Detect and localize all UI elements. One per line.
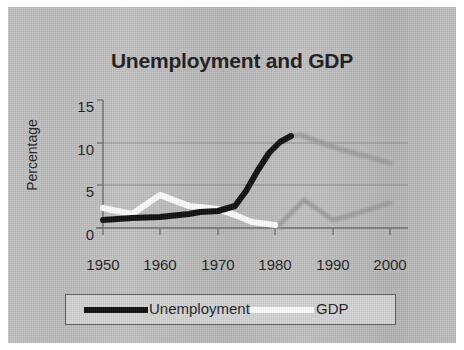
chart-figure: Unemployment and GDP Percentage 15 10 5 … (8, 7, 456, 343)
y-tick-label-10: 10 (58, 141, 94, 158)
x-axis-spine (96, 228, 408, 235)
screenshot-root: Unemployment and GDP Percentage 15 10 5 … (0, 0, 464, 350)
legend-swatch-gdp (250, 307, 314, 313)
chart-legend: Unemployment GDP (65, 294, 396, 325)
legend-label-gdp: GDP (316, 300, 349, 317)
legend-swatch-unemployment (84, 307, 148, 313)
y-tick-label-0: 0 (58, 226, 94, 243)
x-tick-label-1970: 1970 (188, 256, 248, 273)
y-tick-label-15: 15 (58, 98, 94, 115)
y-axis-title: Percentage (24, 100, 40, 210)
chart-title: Unemployment and GDP (8, 49, 456, 73)
x-tick-label-1980: 1980 (245, 256, 305, 273)
x-tick-label-2000: 2000 (360, 256, 420, 273)
series-unemployment-continued-line (291, 135, 390, 163)
y-tick-label-5: 5 (58, 183, 94, 200)
legend-label-unemployment: Unemployment (149, 300, 250, 317)
x-tick-label-1950: 1950 (73, 256, 133, 273)
x-tick-label-1960: 1960 (130, 256, 190, 273)
series-gdp-continued-line (278, 200, 390, 226)
x-tick-label-1990: 1990 (303, 256, 363, 273)
